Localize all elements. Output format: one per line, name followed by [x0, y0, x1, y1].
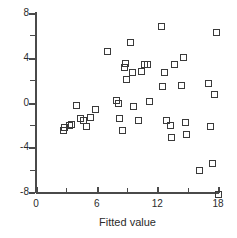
- data-point: [135, 117, 142, 124]
- data-point: [119, 127, 126, 134]
- x-axis-title: Fitted value: [36, 216, 219, 229]
- data-point: [92, 106, 99, 113]
- data-point: [183, 131, 190, 138]
- y-tick-major: [29, 13, 35, 15]
- data-point: [146, 98, 153, 105]
- data-point: [83, 123, 90, 130]
- data-point: [129, 69, 136, 76]
- data-point: [213, 29, 220, 36]
- plot-area: [36, 13, 218, 192]
- x-tick-label: 0: [24, 198, 48, 209]
- y-tick-major: [29, 192, 35, 194]
- data-point: [115, 100, 122, 107]
- y-tick-minor: [30, 125, 35, 126]
- data-point: [196, 167, 203, 174]
- data-point: [138, 68, 145, 75]
- y-tick-label: -8: [5, 187, 29, 197]
- data-point: [87, 114, 94, 121]
- data-point: [167, 122, 174, 129]
- data-point: [178, 82, 185, 89]
- data-point: [209, 160, 216, 167]
- data-point: [144, 61, 151, 68]
- data-point: [130, 103, 137, 110]
- y-tick-label: 4: [5, 53, 29, 63]
- residual-vs-fitted-scatter-chart: 840-4-8 061218 Residual Fitted value: [0, 0, 237, 238]
- y-tick-label: 0: [5, 98, 29, 108]
- data-point: [180, 54, 187, 61]
- x-tick-label: 6: [85, 198, 109, 209]
- data-point: [182, 119, 189, 126]
- data-point: [116, 115, 123, 122]
- data-point: [104, 48, 111, 55]
- y-axis-title-text: Residual: [83, 0, 97, 14]
- y-tick-minor: [30, 35, 35, 36]
- data-point: [127, 39, 134, 46]
- data-point: [161, 69, 168, 76]
- data-point: [122, 60, 129, 67]
- y-axis-title: Residual: [0, 0, 13, 14]
- data-point: [123, 76, 130, 83]
- y-tick-major: [29, 147, 35, 149]
- data-point: [73, 102, 80, 109]
- y-tick-label: -4: [5, 142, 29, 152]
- data-point: [205, 80, 212, 87]
- data-point: [68, 121, 75, 128]
- data-point: [159, 83, 166, 90]
- y-tick-major: [29, 58, 35, 60]
- data-point: [207, 123, 214, 130]
- y-tick-minor: [30, 170, 35, 171]
- data-point: [215, 191, 222, 198]
- x-tick-label: 18: [206, 198, 230, 209]
- x-tick-label: 12: [145, 198, 169, 209]
- y-tick-minor: [30, 80, 35, 81]
- data-point: [211, 91, 218, 98]
- data-point: [158, 23, 165, 30]
- data-point: [171, 61, 178, 68]
- y-tick-major: [29, 103, 35, 105]
- data-point: [168, 134, 175, 141]
